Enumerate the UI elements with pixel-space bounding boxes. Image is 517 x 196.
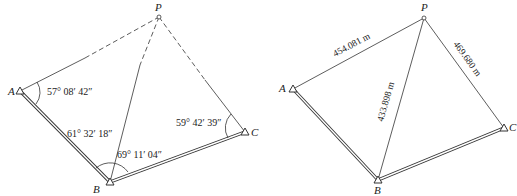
point-label-C-left: C [251,126,259,138]
point-label-A-right: A [278,82,286,94]
point-label-A-left: A [7,85,15,97]
right-figure [289,16,508,183]
distance-PA: 454.081 m [331,31,372,59]
triangulation-diagram: A B C P 57° 08′ 42″ 61° 32′ 18″ 69° 11′ … [0,0,517,196]
distance-PB: 433.898 m [375,80,396,122]
point-label-C-right: C [509,121,517,133]
point-label-B-left: B [93,183,100,195]
point-label-B-right: B [374,184,381,196]
point-label-P-right: P [420,1,428,13]
point-label-P-left: P [154,1,162,13]
angle-at-A: 57° 08′ 42″ [47,86,92,97]
angle-at-C: 59° 42′ 39″ [176,117,221,128]
angle-at-B: 69° 11′ 04″ [117,149,162,160]
distance-PC: 469.680 m [451,39,483,78]
angle-A-B-side: 61° 32′ 18″ [67,128,112,139]
